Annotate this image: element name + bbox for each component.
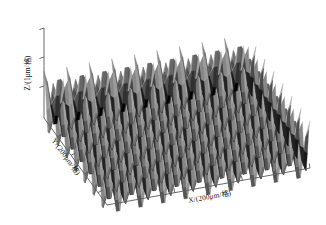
z-axis-tick [40,57,45,59]
z-axis-label: Z/(1μm/格) [23,55,32,90]
axes-layer: Z/(1μm/格) Y/(200μm/格) X/(200μm/格) [0,0,326,225]
figure-canvas: Z/(1μm/格) Y/(200μm/格) X/(200μm/格) [0,0,326,225]
z-axis-tick [40,28,45,30]
x-axis-tick [275,170,276,175]
x-axis-tick [309,163,310,168]
y-axis-tick [71,153,76,155]
y-axis-label: Y/(200μm/格) [50,136,83,177]
y-axis-tick [85,172,90,174]
x-axis-tick [140,194,141,199]
x-axis-label: X/(200μm/格) [187,188,232,205]
y-axis-tick [98,190,103,192]
x-axis-tick [242,176,243,181]
z-axis-tick [40,86,45,88]
x-axis-tick [208,182,209,187]
x-axis-tick [174,188,175,193]
y-axis-tick [58,134,63,136]
